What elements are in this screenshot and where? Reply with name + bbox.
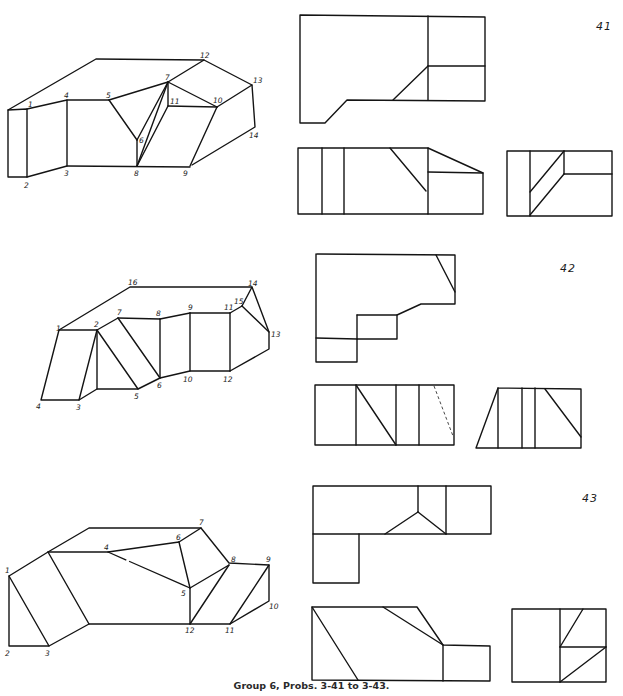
vertex-label: 2	[24, 181, 29, 190]
vertex-label: 10	[269, 602, 279, 611]
vertex-label: 13	[253, 76, 263, 85]
hidden-line	[434, 386, 453, 436]
vertex-label: 6	[139, 136, 144, 145]
vertex-label: 12	[200, 51, 210, 60]
vertex-label: 7	[117, 308, 122, 317]
vertex-label: 9	[188, 303, 193, 312]
vertex-label: 12	[223, 375, 233, 384]
vertex-label: 7	[199, 518, 204, 527]
problem-43: 43 1 2 3 4 5 6 7 8 9 10 11 12	[5, 486, 606, 682]
vertex-label: 4	[64, 91, 69, 100]
vertex-label: 6	[176, 533, 181, 542]
vertex-label: 2	[5, 649, 10, 658]
vertex-label: 11	[225, 626, 235, 635]
side-view-42	[476, 388, 581, 448]
vertex-label: 5	[181, 589, 186, 598]
isometric-43: 1 2 3 4 5 6 7 8 9 10 11 12	[5, 518, 279, 658]
front-view-43	[312, 607, 490, 681]
top-view-41	[300, 15, 485, 123]
vertex-label: 4	[36, 402, 41, 411]
vertex-label: 6	[157, 381, 162, 390]
vertex-label: 9	[266, 555, 271, 564]
isometric-42: 1 2 3 4 5 6 7 8 9 10 11 12 13 14 15 16	[36, 278, 281, 412]
vertex-label: 2	[94, 320, 99, 329]
isometric-41: 1 2 3 4 5 6 7 8 9 10 11 12 13 14	[8, 51, 263, 190]
problem-number-43: 43	[582, 492, 598, 505]
vertex-label: 16	[128, 278, 138, 287]
vertex-label: 5	[106, 91, 111, 100]
vertex-label: 5	[134, 392, 139, 401]
vertex-label: 13	[271, 330, 281, 339]
side-view-43	[512, 609, 606, 682]
top-view-42	[316, 254, 455, 362]
vertex-label: 3	[64, 169, 69, 178]
figure-caption: Group 6, Probs. 3-41 to 3-43.	[0, 680, 623, 691]
vertex-label: 1	[56, 324, 61, 333]
vertex-label: 10	[213, 96, 223, 105]
vertex-label: 15	[234, 297, 244, 306]
problem-41: 41 1 2 3 4 5 6 7 8 9	[8, 15, 612, 216]
vertex-label: 14	[248, 279, 258, 288]
problem-number-41: 41	[596, 20, 612, 33]
top-view-43	[313, 486, 491, 583]
vertex-label: 9	[183, 169, 188, 178]
vertex-label: 11	[170, 97, 180, 106]
vertex-label: 14	[249, 131, 259, 140]
vertex-label: 8	[231, 555, 236, 564]
vertex-label: 11	[224, 303, 234, 312]
vertex-label: 8	[134, 169, 139, 178]
side-view-41	[507, 151, 612, 216]
vertex-label: 3	[76, 403, 81, 412]
problem-number-42: 42	[560, 262, 576, 275]
front-view-42	[315, 385, 454, 445]
vertex-label: 7	[165, 73, 170, 82]
vertex-label: 1	[28, 100, 33, 109]
vertex-label: 8	[156, 309, 161, 318]
vertex-label: 12	[185, 626, 195, 635]
vertex-label: 1	[5, 566, 10, 575]
vertex-label: 3	[45, 649, 50, 658]
vertex-label: 4	[104, 543, 109, 552]
front-view-41	[298, 148, 483, 214]
vertex-label: 10	[183, 375, 193, 384]
problem-42: 42 1 2 3 4 5 6 7 8 9	[36, 254, 581, 448]
drawing-sheet: 41 1 2 3 4 5 6 7 8 9	[0, 0, 623, 696]
